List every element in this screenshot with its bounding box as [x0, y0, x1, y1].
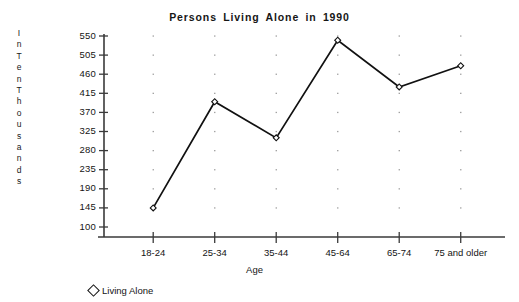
grid-dot	[399, 150, 400, 151]
grid-dot	[153, 169, 154, 170]
grid-dot	[276, 188, 277, 189]
grid-dot	[399, 55, 400, 56]
grid-dot	[276, 55, 277, 56]
grid-dot	[460, 150, 461, 151]
grid-dot	[214, 188, 215, 189]
grid-dot	[399, 112, 400, 113]
grid-dot	[460, 74, 461, 75]
y-axis-tick-label: 280	[58, 144, 96, 155]
grid-dot	[460, 93, 461, 94]
grid-dot	[214, 93, 215, 94]
x-axis-tick-label: 18-24	[141, 247, 165, 258]
grid-dot	[276, 150, 277, 151]
grid-dot	[460, 112, 461, 113]
grid-dot	[276, 169, 277, 170]
data-point-marker[interactable]	[458, 63, 464, 69]
x-axis-title-text: Age	[246, 264, 263, 275]
grid-dot	[276, 93, 277, 94]
grid-dot	[214, 74, 215, 75]
grid-dot	[153, 55, 154, 56]
grid-dot	[276, 35, 277, 36]
grid-dot	[153, 35, 154, 36]
grid-dot	[153, 93, 154, 94]
grid-dot	[214, 55, 215, 56]
grid-dot	[337, 131, 338, 132]
grid-dot	[337, 207, 338, 208]
grid-dot	[460, 35, 461, 36]
grid-dot	[214, 35, 215, 36]
y-axis-tick-label: 505	[58, 49, 96, 60]
legend-item-label: Living Alone	[102, 285, 153, 296]
grid-dot	[460, 207, 461, 208]
x-axis-tick-label: 35-44	[264, 247, 288, 258]
grid-dot	[276, 207, 277, 208]
y-axis-tick-label: 325	[58, 125, 96, 136]
x-axis-tick-label: 65-74	[387, 247, 411, 258]
grid-dot	[337, 112, 338, 113]
grid-dot	[337, 55, 338, 56]
y-axis-tick-label: 370	[58, 106, 96, 117]
x-axis-tick-label: 45-64	[326, 247, 350, 258]
diamond-marker-icon	[87, 284, 100, 297]
series-line	[153, 40, 461, 208]
grid-dot	[460, 55, 461, 56]
grid-dot	[214, 150, 215, 151]
grid-dot	[214, 131, 215, 132]
grid-dot	[460, 131, 461, 132]
grid-dot	[399, 131, 400, 132]
grid-dot	[337, 169, 338, 170]
grid-dot	[153, 112, 154, 113]
grid-dot	[153, 188, 154, 189]
y-axis-tick-label: 550	[58, 30, 96, 41]
axis-lines	[98, 34, 505, 243]
y-axis-tick-label: 415	[58, 87, 96, 98]
grid-dot	[276, 74, 277, 75]
grid-dot	[153, 150, 154, 151]
grid-dot	[337, 35, 338, 36]
grid-dot	[399, 35, 400, 36]
y-axis-tick-label: 100	[58, 221, 96, 232]
grid-dot	[214, 207, 215, 208]
y-axis-tick-label: 460	[58, 68, 96, 79]
x-axis-title: Age	[0, 264, 519, 275]
grid-dot	[399, 188, 400, 189]
x-axis-tick-label: 25-34	[203, 247, 227, 258]
y-axis-tick-label: 235	[58, 163, 96, 174]
line-chart: Persons Living Alone in 1990 InTenThousa…	[0, 0, 519, 302]
grid-dot	[214, 169, 215, 170]
grid-dot	[214, 112, 215, 113]
grid-dot	[337, 74, 338, 75]
chart-legend: Living Alone	[89, 285, 153, 296]
series-living-alone	[150, 37, 463, 211]
grid-dot	[337, 188, 338, 189]
grid-dot	[399, 207, 400, 208]
grid-dot	[460, 169, 461, 170]
grid-dots	[153, 35, 462, 208]
grid-dot	[153, 131, 154, 132]
grid-dot	[276, 131, 277, 132]
grid-dot	[337, 150, 338, 151]
x-axis-tick-label: 75 and older	[434, 247, 487, 258]
y-axis-tick-label: 145	[58, 201, 96, 212]
grid-dot	[399, 93, 400, 94]
grid-dot	[399, 169, 400, 170]
grid-dot	[399, 74, 400, 75]
y-axis-tick-label: 190	[58, 182, 96, 193]
grid-dot	[337, 93, 338, 94]
grid-dot	[153, 74, 154, 75]
grid-dot	[460, 188, 461, 189]
grid-dot	[276, 112, 277, 113]
